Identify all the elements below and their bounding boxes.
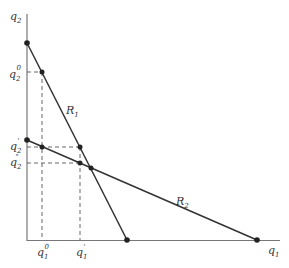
x-tick-q1-prime: q1' — [76, 243, 88, 261]
y-axis-label: q2 — [10, 10, 22, 25]
dashed-guides — [27, 72, 80, 240]
y-tick-q2-double-prime: q2" — [10, 153, 22, 171]
curve-r1-label: R1 — [65, 104, 79, 119]
curve-r2-label: R2 — [175, 195, 189, 210]
points — [24, 40, 260, 243]
curve-r2 — [27, 140, 257, 240]
y-tick-q2-0: q20 — [9, 64, 22, 83]
reaction-curve-diagram: q2 q1 R1 R2 q20 q2' q2" q10 q1' — [0, 0, 289, 268]
x-tick-q1-0: q10 — [37, 243, 50, 261]
x-axis-label: q1 — [268, 244, 280, 259]
